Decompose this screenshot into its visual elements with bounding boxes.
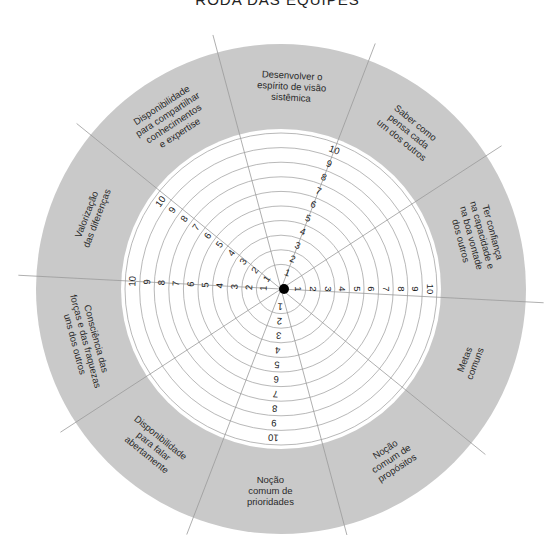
- scale-number: 9: [141, 279, 152, 285]
- scale-number: 6: [185, 281, 196, 287]
- scale-number: 6: [366, 286, 377, 291]
- scale-number: 5: [199, 282, 210, 288]
- scale-number: 1: [258, 285, 269, 291]
- scale-number: 2: [276, 316, 282, 327]
- scale-number: 8: [396, 286, 407, 291]
- scale-number: 4: [337, 286, 348, 291]
- scale-number: 7: [170, 281, 181, 287]
- scale-number: 8: [272, 403, 278, 414]
- scale-number: 4: [275, 345, 281, 356]
- scale-number: 9: [271, 418, 277, 429]
- scale-number: 2: [243, 284, 254, 290]
- scale-number: 3: [276, 330, 282, 341]
- scale-number: 1: [277, 301, 283, 312]
- segment-label-line: comum de: [248, 485, 292, 496]
- scale-number: 1: [293, 286, 304, 291]
- team-wheel: Desenvolver oespírito de visãosistêmicaS…: [0, 0, 555, 535]
- scale-number: 5: [274, 359, 280, 370]
- scale-number: 9: [410, 286, 421, 291]
- scale-number: 5: [352, 286, 363, 291]
- center-dot: [279, 284, 289, 294]
- scale-number: 3: [228, 284, 239, 290]
- scale-number: 6: [273, 374, 279, 385]
- scale-number: 7: [273, 389, 279, 400]
- scale-number: 10: [425, 284, 436, 295]
- segment-label-line: Noção: [257, 474, 284, 485]
- scale-number: 3: [323, 286, 334, 291]
- scale-number: 10: [268, 432, 279, 444]
- scale-number: 2: [308, 286, 319, 291]
- scale-number: 7: [381, 286, 392, 291]
- scale-number: 4: [214, 283, 225, 289]
- scale-number: 8: [156, 280, 167, 286]
- scale-number: 10: [126, 276, 138, 287]
- segment-label-line: prioridades: [247, 496, 294, 507]
- segment-label-line: sistêmica: [271, 91, 312, 104]
